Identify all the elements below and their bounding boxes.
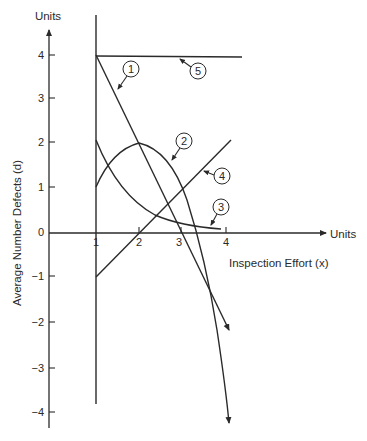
svg-text:−1: −1 (31, 270, 44, 282)
svg-text:−2: −2 (31, 316, 44, 328)
svg-text:0: 0 (38, 226, 44, 238)
x-tick-labels: 1 2 3 4 (93, 236, 229, 248)
svg-text:4: 4 (38, 49, 44, 61)
svg-text:−3: −3 (31, 362, 44, 374)
svg-text:3: 3 (218, 201, 224, 213)
svg-text:5: 5 (195, 65, 201, 77)
callout-2: 2 (172, 133, 192, 160)
svg-text:1: 1 (38, 181, 44, 193)
chart: Units 4 3 2 1 0 −1 −2 −3 −4 Average Numb… (0, 0, 367, 441)
series-2-curve (96, 143, 229, 423)
y-axis-title: Average Number Defects (d) (11, 160, 23, 306)
series-5-line (96, 56, 242, 57)
y-tick-labels: 4 3 2 1 0 −1 −2 −3 −4 (31, 49, 44, 418)
svg-text:4: 4 (223, 236, 229, 248)
svg-text:2: 2 (136, 236, 142, 248)
svg-text:3: 3 (176, 236, 182, 248)
svg-text:3: 3 (38, 92, 44, 104)
callout-4: 4 (204, 168, 230, 184)
callout-3: 3 (211, 199, 229, 225)
x-axis-title: Inspection Effort (x) (229, 257, 329, 269)
callout-5: 5 (180, 59, 206, 79)
y-units-label: Units (35, 10, 61, 22)
svg-text:1: 1 (128, 63, 134, 75)
callout-1: 1 (118, 61, 139, 89)
x-units-label: Units (330, 228, 356, 240)
svg-text:2: 2 (181, 135, 187, 147)
series-4-line (96, 140, 231, 277)
svg-text:−4: −4 (31, 406, 44, 418)
svg-text:2: 2 (38, 136, 44, 148)
svg-text:4: 4 (219, 170, 225, 182)
